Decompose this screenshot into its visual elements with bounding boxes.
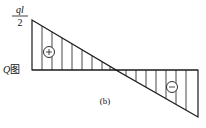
shear-force-diagram: ql 2 Q图 (0, 0, 206, 128)
top-value-label: ql 2 (12, 4, 28, 28)
positive-region (32, 20, 116, 70)
diagram-title-label: Q图 (3, 64, 20, 75)
negative-region (116, 70, 198, 117)
subfigure-label: (b) (100, 96, 111, 106)
top-value-denominator: 2 (18, 17, 23, 28)
top-value-numerator: ql (16, 4, 24, 15)
